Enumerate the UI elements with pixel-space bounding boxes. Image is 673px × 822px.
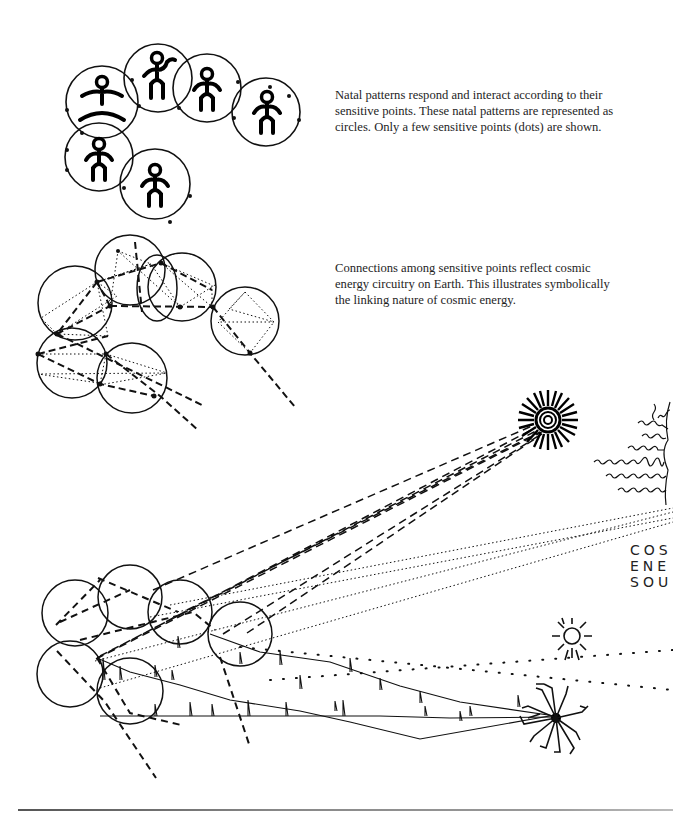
wavy-sun-icon xyxy=(594,402,670,505)
natal-patterns-diagram xyxy=(65,44,301,224)
connections-diagram xyxy=(36,235,296,430)
label-line-1: COS xyxy=(630,542,673,558)
starburst-spiky-lines xyxy=(97,634,555,739)
radiating-sun-icon xyxy=(518,390,578,450)
figure-illustration xyxy=(0,0,673,822)
stick-figure-icons xyxy=(80,53,280,207)
small-sun-icon xyxy=(552,618,592,660)
label-line-3: SOU xyxy=(630,574,673,590)
label-line-2: ENE xyxy=(630,558,673,574)
cosmic-energy-diagram xyxy=(37,426,673,778)
page-bottom-rule xyxy=(18,809,673,811)
cosmic-energy-sources-label: COS ENE SOU xyxy=(630,542,673,590)
